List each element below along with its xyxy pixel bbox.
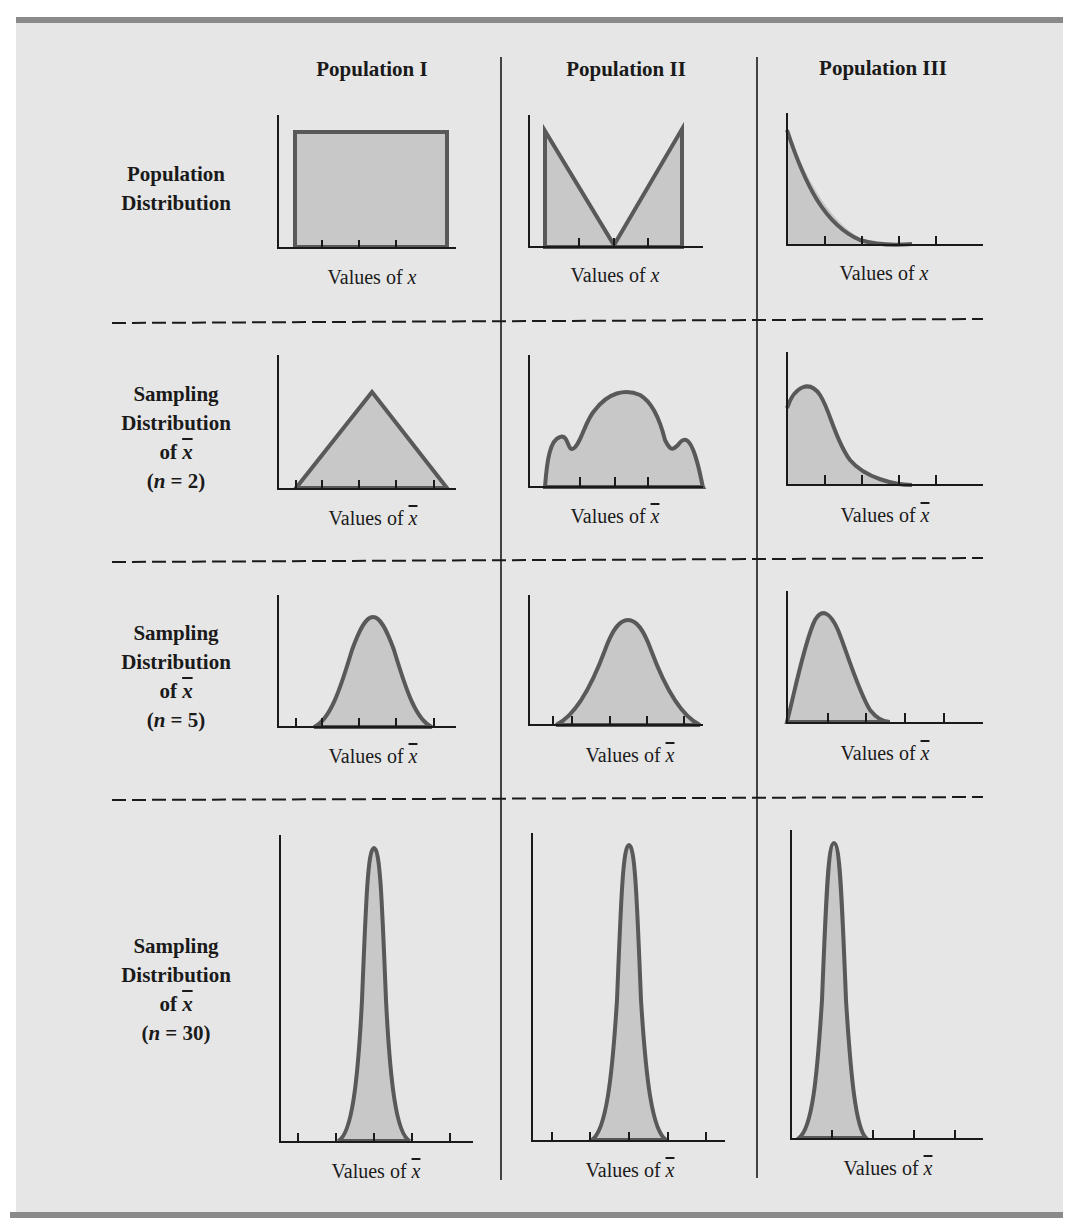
x-bar-symbol: x: [924, 1157, 933, 1179]
axis-label-text: Values of: [571, 505, 651, 527]
x-bar-symbol: x: [666, 744, 675, 766]
row-label-sampling-n5: Sampling Distribution of x (n = 5): [86, 619, 266, 735]
x-bar-symbol: x: [182, 992, 193, 1016]
axis-label-text: Values of: [571, 264, 651, 286]
x-bar-symbol: x: [666, 1159, 675, 1181]
narrow-normal-curve: [338, 848, 410, 1141]
n-symbol: n: [148, 1021, 160, 1045]
row-separator-2: [112, 558, 983, 562]
x-bar-symbol: x: [409, 745, 418, 767]
x-axis-label: Values of x: [784, 262, 984, 285]
of-text: of: [159, 992, 182, 1016]
axis-label-text: Values of: [329, 507, 409, 529]
x-symbol: x: [408, 266, 417, 288]
x-bar-symbol: x: [409, 507, 418, 529]
column-title-population-3: Population III: [763, 56, 1003, 81]
row-label-line: Sampling: [86, 380, 266, 409]
axis-label-text: Values of: [332, 1160, 412, 1182]
x-bar-axis-label: Values of x: [530, 744, 730, 767]
row-label-line: Distribution: [86, 961, 266, 990]
row-label-line: Sampling: [86, 932, 266, 961]
axis-label-text: Values of: [841, 504, 921, 526]
sample-size-label: (n = 2): [86, 467, 266, 496]
narrow-normal-curve: [592, 845, 666, 1140]
axis-label-text: Values of: [844, 1157, 924, 1179]
n-value: = 2): [165, 469, 205, 493]
x-bar-axis-label: Values of x: [515, 505, 715, 528]
x-bar-axis-label: Values of x: [788, 1157, 988, 1180]
panel-pop3-n30: [791, 830, 983, 1139]
panel-pop1-n5: [278, 595, 456, 727]
row-label-line: Distribution: [86, 648, 266, 677]
x-bar-symbol: x: [412, 1160, 421, 1182]
axis-label-text: Values of: [586, 1159, 666, 1181]
n-symbol: n: [154, 708, 166, 732]
row-separator-1: [112, 319, 983, 323]
trimodal-curve: [545, 392, 703, 487]
column-title-population-2: Population II: [506, 57, 746, 82]
panel-pop3-population: [787, 113, 983, 245]
v-shape-curve: [545, 129, 682, 247]
axis-label-text: Values of: [586, 744, 666, 766]
panel-pop3-n5: [787, 591, 983, 723]
panel-pop2-population: [529, 115, 703, 247]
x-bar-axis-label: Values of x: [530, 1159, 730, 1182]
x-bar-axis-label: Values of x: [276, 1160, 476, 1183]
x-bar-axis-label: Values of x: [273, 745, 473, 768]
axis-label-text: Values of: [841, 742, 921, 764]
uniform-curve: [295, 132, 447, 247]
paren: (: [147, 708, 154, 732]
x-symbol: x: [920, 262, 929, 284]
x-bar-symbol: x: [921, 742, 930, 764]
axis-label-text: Values of: [840, 262, 920, 284]
row-label-line: Sampling: [86, 619, 266, 648]
bell-curve: [556, 620, 700, 725]
row-label-line: of x: [86, 438, 266, 467]
skewed-bell-curve: [787, 613, 890, 722]
of-text: of: [159, 440, 182, 464]
sample-size-label: (n = 30): [86, 1019, 266, 1048]
panel-pop3-n2: [787, 352, 983, 485]
column-title-population-1: Population I: [252, 57, 492, 82]
paren: (: [147, 469, 154, 493]
row-label-line: Population: [86, 160, 266, 189]
skewed-curve: [787, 386, 912, 485]
x-bar-symbol: x: [182, 440, 193, 464]
sample-size-label: (n = 5): [86, 706, 266, 735]
axis-label-text: Values of: [329, 745, 409, 767]
panel-pop1-n30: [280, 835, 473, 1142]
x-bar-axis-label: Values of x: [785, 742, 985, 765]
triangular-curve: [296, 392, 447, 488]
x-bar-symbol: x: [651, 505, 660, 527]
row-label-population-distribution: Population Distribution: [86, 160, 266, 218]
n-value: = 30): [160, 1021, 210, 1045]
of-text: of: [159, 679, 182, 703]
x-axis-label: Values of x: [515, 264, 715, 287]
panel-pop1-population: [278, 115, 456, 248]
panel-pop1-n2: [278, 355, 456, 489]
row-separator-3: [112, 797, 983, 800]
n-symbol: n: [154, 469, 166, 493]
row-label-line: Distribution: [86, 409, 266, 438]
panel-pop2-n5: [529, 595, 703, 725]
x-bar-axis-label: Values of x: [785, 504, 985, 527]
x-symbol: x: [651, 264, 660, 286]
axis-label-text: Values of: [328, 266, 408, 288]
row-label-line: of x: [86, 990, 266, 1019]
x-bar-symbol: x: [921, 504, 930, 526]
row-label-line: of x: [86, 677, 266, 706]
narrow-normal-curve: [799, 843, 866, 1138]
row-label-sampling-n2: Sampling Distribution of x (n = 2): [86, 380, 266, 496]
x-axis-label: Values of x: [272, 266, 472, 289]
row-label-sampling-n30: Sampling Distribution of x (n = 30): [86, 932, 266, 1048]
row-label-line: Distribution: [86, 189, 266, 218]
x-bar-symbol: x: [182, 679, 193, 703]
bell-curve: [314, 617, 432, 727]
panel-pop2-n2: [529, 355, 703, 487]
n-value: = 5): [165, 708, 205, 732]
panel-pop2-n30: [532, 833, 725, 1141]
x-bar-axis-label: Values of x: [273, 507, 473, 530]
exponential-curve: [787, 130, 872, 244]
